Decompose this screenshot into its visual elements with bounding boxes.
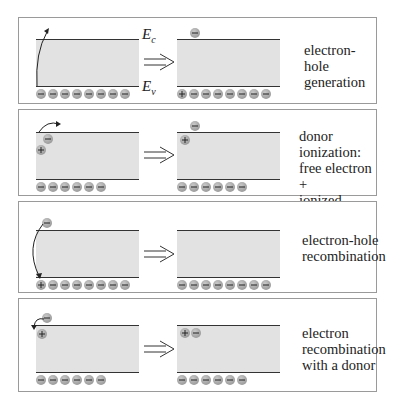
neutral-donor-ion <box>180 328 190 338</box>
panel-donor-ionization: donor ionization:free electron +ionized … <box>18 109 377 196</box>
free-electron <box>190 28 200 38</box>
band-gap-after <box>177 132 280 180</box>
ionized-donor <box>180 135 190 145</box>
valence-band-label: Ev <box>142 78 156 97</box>
donor-electron <box>43 134 53 144</box>
transition-arrow-icon <box>144 341 178 357</box>
donor-ion <box>36 145 46 155</box>
panel-description: electron-holerecombination <box>302 232 386 264</box>
transition-arrow-icon <box>144 54 178 70</box>
panel-electron-hole-generation: Ec Ev electron-holegeneration <box>18 17 377 104</box>
panel-description: electron-holegeneration <box>304 42 376 90</box>
free-electron <box>190 121 200 131</box>
band-gap-after <box>177 39 280 87</box>
transition-arrow-icon <box>144 147 178 163</box>
transition-arrow-icon <box>144 246 178 262</box>
conduction-band-label: Ec <box>142 26 156 45</box>
panel-electron-recombination-donor: electronrecombinationwith a donor <box>18 298 377 392</box>
panel-electron-hole-recombination: electron-holerecombination <box>18 201 377 293</box>
donor-ion <box>37 329 47 339</box>
band-gap-after <box>177 230 280 278</box>
panel-description: electronrecombinationwith a donor <box>302 325 386 373</box>
neutral-donor-electron <box>191 328 201 338</box>
